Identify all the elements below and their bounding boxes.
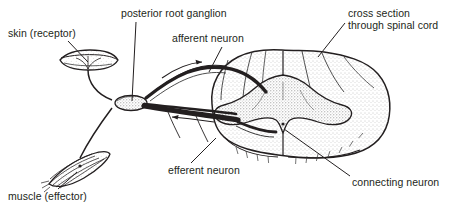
label-posterior-root-ganglion: posterior root ganglion [121,8,227,20]
label-cross-section-spinal-cord: cross section through spinal cord [348,8,438,31]
spinal-cord-cross-section [212,50,390,164]
leader-cross-section [318,23,345,57]
label-skin-receptor: skin (receptor) [8,28,76,40]
muscle-spindle [41,152,110,192]
label-muscle-effector: muscle (effector) [8,191,87,203]
skin-receptor-organ [60,50,118,70]
posterior-root-ganglion-body [115,96,147,111]
leader-posterior-root-ganglion [132,22,136,101]
figure-canvas: skin (receptor) posterior root ganglion … [0,0,449,209]
leader-efferent-neuron [191,138,216,163]
label-connecting-neuron: connecting neuron [352,177,439,189]
label-efferent-neuron: efferent neuron [168,165,240,177]
label-afferent-neuron: afferent neuron [172,33,244,45]
